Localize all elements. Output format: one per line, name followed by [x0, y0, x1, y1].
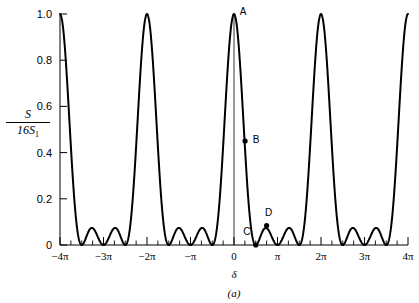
x-tick-label: −4π [40, 250, 80, 262]
x-tick-label: 0 [214, 250, 254, 262]
x-tick-label: −2π [127, 250, 167, 262]
y-axis-label: S 16S1 [6, 108, 50, 139]
y-axis-label-denominator: 16S1 [6, 122, 50, 140]
y-tick-label: 1.0 [22, 8, 52, 20]
annotation-label-c: C [237, 226, 257, 237]
x-tick-label: π [258, 250, 298, 262]
figure-multiple-slit-interference: S 16S1 00.20.40.60.81.0 −4π−3π−2π−π0π2π3… [0, 0, 419, 303]
x-axis-name: δ [214, 268, 254, 280]
x-tick-label: 4π [388, 250, 419, 262]
x-tick-label: −π [171, 250, 211, 262]
x-tick-label: 2π [301, 250, 341, 262]
annotation-point-c [253, 242, 258, 247]
x-tick-label: 3π [345, 250, 385, 262]
annotation-label-d: D [259, 207, 279, 218]
annotation-point-d [264, 223, 269, 228]
x-tick-label: −3π [84, 250, 124, 262]
y-tick-label: 0.6 [22, 100, 52, 112]
annotation-label-a: A [233, 6, 253, 17]
y-tick-label: 0.4 [22, 147, 52, 159]
y-tick-label: 0.2 [22, 193, 52, 205]
figure-caption: (a) [214, 287, 254, 299]
y-tick-label: 0.8 [22, 54, 52, 66]
annotation-label-b: B [246, 134, 266, 145]
